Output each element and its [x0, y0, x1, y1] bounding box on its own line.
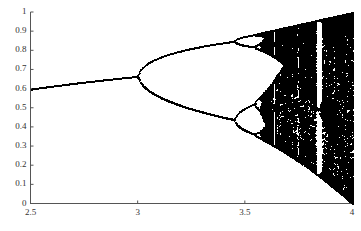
y-axis-tick-label: 0.7: [15, 64, 26, 73]
y-axis-tick-label: 0.3: [15, 141, 26, 150]
attractor-points: [31, 12, 354, 205]
y-axis-tick-label: 1: [22, 7, 27, 16]
x-axis-tick-label: 3: [118, 208, 158, 217]
x-axis-tick-label: 2.5: [11, 208, 51, 217]
y-axis-tick-label: 0.2: [15, 160, 26, 169]
y-axis-tick-label: 0.8: [15, 45, 26, 54]
y-axis-tick-label: 0.5: [15, 103, 26, 112]
y-axis-tick-label: 0.4: [15, 122, 26, 131]
x-axis-tick-label: 3.5: [225, 208, 265, 217]
y-axis-tick-label: 0.1: [15, 179, 26, 188]
y-axis-tick-label: 0.6: [15, 84, 26, 93]
attractor-point-cloud: [31, 12, 354, 205]
bifurcation-diagram-figure: 00.10.20.30.40.50.60.70.80.91 2.533.54: [0, 0, 361, 231]
y-axis-tick-label: 0.9: [15, 26, 26, 35]
bifurcation-plot-canvas: [0, 0, 361, 231]
x-axis-tick-label: 4: [332, 208, 361, 217]
